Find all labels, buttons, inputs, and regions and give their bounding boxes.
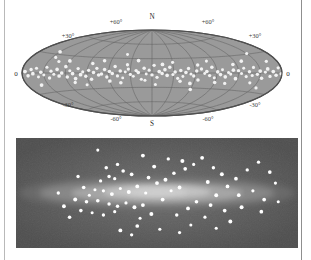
cluster-dot — [215, 227, 218, 230]
cluster-dot — [105, 75, 108, 78]
cluster-dot — [252, 66, 255, 69]
cluster-dot — [257, 161, 260, 164]
cluster-dot — [23, 70, 27, 74]
cluster-dot — [132, 205, 136, 209]
cluster-dot — [220, 172, 224, 176]
pole-north-label: N — [149, 13, 155, 21]
cluster-dot — [118, 228, 122, 232]
cluster-dot — [102, 189, 105, 192]
cluster-dot — [145, 72, 148, 75]
cluster-dot — [248, 81, 251, 84]
cluster-dot — [124, 71, 127, 74]
cluster-dot — [205, 60, 208, 63]
cluster-dot — [74, 81, 77, 84]
cluster-dot — [142, 66, 146, 70]
page-rule-left — [4, 0, 5, 260]
cluster-dot — [68, 215, 72, 219]
cluster-dot — [161, 198, 165, 202]
cluster-dot — [113, 210, 116, 213]
cluster-dot — [126, 53, 129, 56]
cluster-dot — [140, 78, 143, 81]
cluster-dot — [154, 83, 157, 86]
latitude-label: -30° — [62, 101, 74, 108]
cluster-dot — [130, 172, 134, 176]
cluster-dot — [141, 154, 145, 158]
cluster-dot — [118, 69, 122, 73]
cluster-dot — [239, 59, 243, 63]
cluster-dot — [245, 52, 248, 55]
cluster-dot — [184, 71, 188, 75]
cluster-dot — [237, 193, 241, 197]
cluster-dot — [163, 178, 167, 182]
cluster-dot — [55, 68, 59, 72]
cluster-dot — [168, 66, 171, 69]
cluster-dot — [135, 185, 139, 189]
cluster-dot — [178, 231, 181, 234]
cluster-dot — [178, 186, 182, 190]
latitude-label: +30° — [249, 32, 262, 39]
cluster-dot — [110, 192, 114, 196]
cluster-dot — [79, 209, 83, 213]
cluster-dot — [57, 60, 60, 63]
cluster-dot — [100, 72, 104, 76]
cluster-dot — [226, 185, 230, 189]
cluster-dot — [229, 73, 232, 76]
cluster-dot — [188, 88, 192, 92]
cluster-dot — [254, 86, 257, 89]
cluster-dot — [116, 74, 119, 77]
cluster-dot — [178, 80, 182, 84]
pole-south-label: S — [150, 120, 154, 128]
cluster-dot — [93, 188, 96, 191]
galaxy-svg — [16, 138, 298, 248]
cluster-dot — [251, 74, 254, 77]
cluster-dot — [163, 68, 167, 72]
cluster-dot — [124, 201, 127, 204]
cluster-dot — [223, 75, 227, 79]
cluster-dot — [60, 71, 64, 75]
cluster-dot — [42, 73, 45, 76]
cluster-dot — [96, 149, 99, 152]
cluster-dot — [179, 69, 182, 72]
cluster-dot — [141, 203, 145, 207]
cluster-dot — [90, 78, 94, 82]
cluster-dot — [137, 59, 141, 63]
cluster-dot — [173, 70, 177, 74]
cluster-dot — [277, 200, 280, 203]
cluster-dot — [180, 159, 184, 163]
cluster-dot — [102, 213, 105, 216]
cluster-dot — [265, 60, 268, 63]
cluster-dot — [99, 179, 102, 182]
cluster-dot — [203, 216, 206, 219]
cluster-dot — [121, 76, 124, 79]
cluster-dot — [181, 75, 184, 78]
cluster-dot — [91, 211, 94, 214]
cluster-dot — [262, 198, 266, 202]
cluster-dot — [121, 169, 125, 173]
cluster-dot — [172, 171, 176, 175]
cluster-dot — [108, 70, 112, 74]
cluster-dot — [81, 70, 84, 73]
galaxy-panel — [16, 138, 298, 248]
cluster-dot — [223, 82, 226, 85]
cluster-dot — [213, 81, 217, 85]
cluster-dot — [176, 77, 179, 80]
cluster-dot — [214, 193, 218, 197]
cluster-dot — [212, 166, 215, 169]
cluster-dot — [84, 74, 88, 78]
cluster-dot — [232, 68, 236, 72]
cluster-dot — [40, 83, 44, 87]
edge-label-right: 0 — [286, 70, 290, 78]
latitude-label: -60° — [202, 115, 214, 122]
cluster-dot — [200, 67, 203, 70]
galaxy-core — [127, 188, 187, 196]
cluster-dot — [205, 70, 209, 74]
cluster-dot — [52, 73, 55, 76]
cluster-dot — [188, 82, 192, 86]
cluster-dot — [149, 212, 153, 216]
cluster-dot — [277, 66, 280, 69]
cluster-dot — [240, 72, 243, 75]
cluster-dot — [147, 176, 151, 180]
cluster-dot — [144, 191, 147, 194]
cluster-dot — [223, 209, 227, 213]
cluster-dot — [82, 186, 86, 190]
